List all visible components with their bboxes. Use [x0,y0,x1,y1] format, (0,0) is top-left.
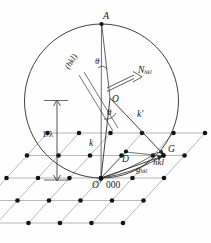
sphere-center-label: O [112,95,119,105]
apex-label: A [103,11,109,21]
reflection-index-label: hkl [153,158,164,167]
reflection-point-label: G [168,145,175,155]
d-point-label: D [122,155,129,165]
scattering-vector-label: ghkl [136,165,147,175]
theta-arc-upper [98,66,107,69]
radius-dimension-label: 1/λ [42,130,53,139]
locus-arc-inner [101,152,158,178]
origin-index-label: 000 [106,181,120,191]
origin-point-label: O′ [92,181,101,191]
ewald-sphere-figure: A θ (hkl) Nhkl O θ 1/λ k′ k G hkl D ghkl… [0,0,211,243]
plane-trace-line-a [79,75,113,131]
diffracted-wavevector-label: k′ [137,110,143,120]
plane-normal-subscript: hkl [144,69,151,75]
plane-normal-label: Nhkl [138,66,152,76]
optic-axis-line [101,24,102,179]
apex-node [99,22,103,26]
theta-upper-label: θ [95,57,99,66]
plane-normal-arrow [107,72,142,92]
construction-layer [0,0,211,243]
scattering-vector-subscript: hkl [141,168,148,174]
incident-wavevector-label: k [89,139,93,149]
theta-lower-label: θ [107,108,111,117]
d-node [124,149,128,153]
diffracted-wavevector-line [110,98,164,155]
